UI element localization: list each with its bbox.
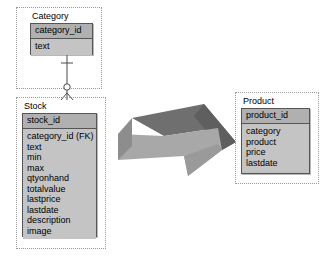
entity-key-category: category_id bbox=[31, 24, 92, 39]
entity-caption-category: Category bbox=[32, 11, 69, 21]
entity-fields-stock: category_id (FK) text min max qtyonhand … bbox=[23, 129, 96, 239]
entity-key-product: product_id bbox=[242, 109, 309, 124]
entity-field: min bbox=[27, 152, 93, 163]
entity-key-stock: stock_id bbox=[23, 114, 96, 129]
entity-field: max bbox=[27, 163, 93, 174]
entity-caption-stock: Stock bbox=[24, 101, 47, 111]
entity-caption-product: Product bbox=[243, 96, 274, 106]
entity-field: lastdate bbox=[27, 205, 93, 216]
entity-field: product bbox=[246, 137, 306, 148]
right-arrow-icon bbox=[118, 98, 238, 180]
entity-field: image bbox=[27, 226, 93, 237]
entity-box-category[interactable]: category_id text bbox=[30, 23, 93, 55]
entity-field: description bbox=[27, 215, 93, 226]
entity-box-stock[interactable]: stock_id category_id (FK) text min max q… bbox=[22, 113, 97, 237]
relationship-connector-category-stock[interactable] bbox=[56, 55, 78, 101]
entity-field: lastprice bbox=[27, 194, 93, 205]
entity-field: price bbox=[246, 147, 306, 158]
entity-fields-category: text bbox=[31, 39, 92, 55]
entity-box-product[interactable]: product_id category product price lastda… bbox=[241, 108, 310, 174]
entity-field: lastdate bbox=[246, 158, 306, 169]
entity-field: text bbox=[35, 41, 89, 52]
entity-field: text bbox=[27, 142, 93, 153]
entity-field: totalvalue bbox=[27, 184, 93, 195]
entity-field: qtyonhand bbox=[27, 173, 93, 184]
entity-fields-product: category product price lastdate bbox=[242, 124, 309, 171]
crows-foot-icon bbox=[56, 55, 78, 101]
diagram-canvas: Category category_id text Stock stock_id… bbox=[0, 0, 331, 272]
transform-arrow bbox=[118, 98, 238, 180]
entity-field: category_id (FK) bbox=[27, 131, 93, 142]
entity-field: category bbox=[246, 126, 306, 137]
